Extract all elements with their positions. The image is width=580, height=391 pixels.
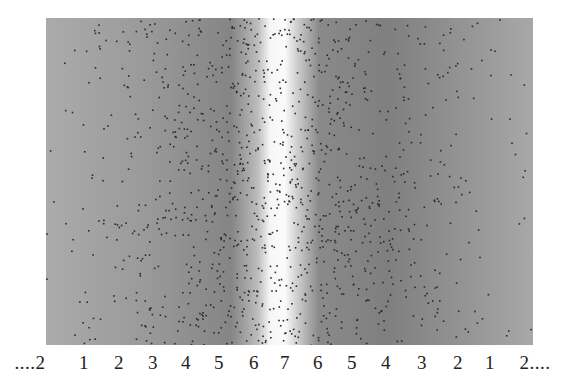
- scale-labels: ....212345676543212....: [0, 352, 580, 382]
- scale-label: 4: [181, 352, 191, 374]
- scale-label: 4: [381, 352, 391, 374]
- scale-label: 7: [280, 352, 290, 374]
- gradient-panel: [46, 18, 533, 345]
- scale-label: 3: [148, 352, 158, 374]
- scale-label: 2: [114, 352, 124, 374]
- scale-label: 6: [249, 352, 259, 374]
- scale-label: 2: [453, 352, 463, 374]
- scale-label: ....2: [15, 352, 46, 374]
- scale-label: 1: [79, 352, 89, 374]
- gradient-fill: [46, 18, 533, 345]
- stippled-gradient-figure: [46, 18, 533, 345]
- scale-label: 1: [485, 352, 495, 374]
- scale-label: 5: [347, 352, 357, 374]
- scale-label: 3: [417, 352, 427, 374]
- scale-label: 5: [214, 352, 224, 374]
- scale-label: 2....: [520, 352, 551, 374]
- scale-label: 6: [313, 352, 323, 374]
